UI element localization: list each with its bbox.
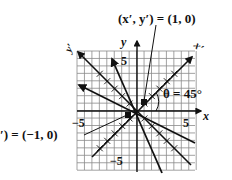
leader-top — [144, 25, 156, 101]
label-point-top: (x′, y′) = (1, 0) — [118, 11, 196, 26]
label-y-prime: y′ — [61, 41, 76, 56]
tick-label-y-neg: −5 — [110, 154, 123, 168]
tick-label-x-pos: 5 — [183, 116, 189, 130]
angle-arc — [156, 92, 159, 111]
label-point-left: ′) = (−1, 0) — [0, 127, 57, 142]
label-x-axis: x — [202, 109, 209, 123]
label-y-axis: y — [119, 35, 127, 49]
point-neg1-0 — [125, 112, 131, 118]
point-1-0 — [141, 99, 147, 105]
tick-label-x-neg: −5 — [72, 116, 85, 130]
label-angle: θ = 45° — [163, 86, 202, 101]
tick-label-y-pos: 5 — [121, 54, 127, 68]
rotated-axes-diagram: (x′, y′) = (1, 0) ′) = (−1, 0) θ = 45° x… — [0, 0, 232, 180]
